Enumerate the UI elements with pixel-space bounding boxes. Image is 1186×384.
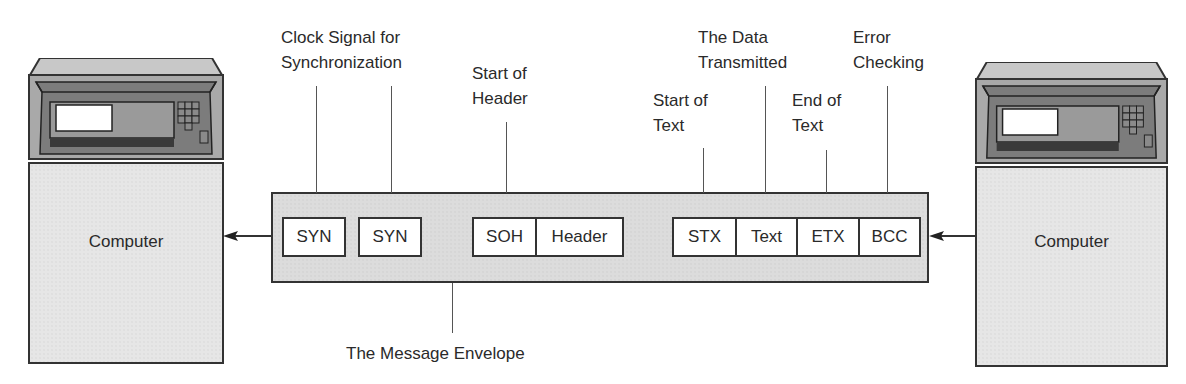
arrow-left-icon xyxy=(928,229,978,243)
arrow-left-icon xyxy=(222,229,274,243)
leader-line-text xyxy=(765,86,766,193)
field-soh: SOH xyxy=(472,217,537,257)
leader-line-bcc xyxy=(887,86,888,193)
computer-monitor-icon xyxy=(28,58,224,162)
computer-base: Computer xyxy=(28,162,224,364)
leader-line-syn2 xyxy=(391,86,392,193)
envelope-caption: The Message Envelope xyxy=(346,341,525,366)
computer-monitor-icon xyxy=(975,62,1168,166)
annotation-line: Text xyxy=(653,113,708,138)
computer-base: Computer xyxy=(975,166,1168,367)
computer-label: Computer xyxy=(30,232,222,252)
field-stx: STX xyxy=(672,217,737,257)
left-computer: Computer xyxy=(28,58,224,364)
field-bcc: BCC xyxy=(858,217,921,257)
annotation-line: Transmitted xyxy=(698,50,787,75)
right-computer: Computer xyxy=(975,62,1168,367)
leader-line-envelope xyxy=(452,283,453,333)
leader-line-etx xyxy=(826,150,827,193)
field-syn: SYN xyxy=(358,217,422,257)
field-etx: ETX xyxy=(796,217,860,257)
annotation-clock-signal: Clock Signal for Synchronization xyxy=(281,25,402,75)
annotation-start-of-text: Start of Text xyxy=(653,88,708,138)
annotation-line: Text xyxy=(792,113,841,138)
leader-line-stx xyxy=(703,148,704,193)
annotation-data-transmitted: The Data Transmitted xyxy=(698,25,787,75)
annotation-line: Start of xyxy=(472,61,528,86)
annotation-line: Error xyxy=(853,25,924,50)
annotation-line: The Data xyxy=(698,25,787,50)
annotation-line: Start of xyxy=(653,88,708,113)
annotation-line: Synchronization xyxy=(281,50,402,75)
field-header: Header xyxy=(535,217,624,257)
computer-label: Computer xyxy=(977,232,1166,252)
annotation-error-checking: Error Checking xyxy=(853,25,924,75)
annotation-line: Checking xyxy=(853,50,924,75)
annotation-line: End of xyxy=(792,88,841,113)
annotation-line: Header xyxy=(472,86,528,111)
field-text: Text xyxy=(735,217,798,257)
annotation-end-of-text: End of Text xyxy=(792,88,841,138)
annotation-start-of-header: Start of Header xyxy=(472,61,528,111)
annotation-line: Clock Signal for xyxy=(281,25,402,50)
leader-line-soh xyxy=(506,122,507,193)
field-syn: SYN xyxy=(282,217,346,257)
leader-line-syn1 xyxy=(316,86,317,193)
